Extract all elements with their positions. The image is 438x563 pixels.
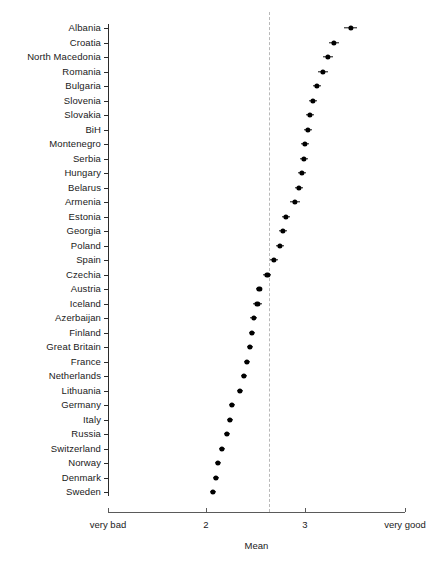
category-label: Czechia bbox=[66, 270, 101, 280]
data-point bbox=[237, 388, 242, 393]
data-point bbox=[281, 228, 286, 233]
data-point bbox=[299, 170, 304, 175]
category-label: Hungary bbox=[64, 168, 101, 178]
category-label: Georgia bbox=[67, 226, 102, 236]
x-axis-tick-label: very bad bbox=[90, 519, 126, 530]
data-point bbox=[219, 446, 224, 451]
data-point bbox=[247, 344, 252, 349]
category-label: Belarus bbox=[68, 183, 101, 193]
y-axis-tick bbox=[104, 231, 108, 232]
data-point bbox=[284, 214, 289, 219]
x-axis-title: Mean bbox=[245, 540, 269, 551]
category-label: Albania bbox=[69, 23, 101, 33]
data-point bbox=[331, 40, 336, 45]
category-label: Denmark bbox=[62, 473, 101, 483]
data-point bbox=[255, 301, 260, 306]
y-axis-tick bbox=[104, 246, 108, 247]
x-axis-line bbox=[108, 512, 405, 513]
data-point bbox=[296, 185, 301, 190]
data-point bbox=[213, 475, 218, 480]
x-axis-tick bbox=[305, 508, 306, 512]
y-axis-tick bbox=[104, 405, 108, 406]
category-label: North Macedonia bbox=[27, 52, 101, 62]
y-axis-tick bbox=[104, 260, 108, 261]
y-axis-tick bbox=[104, 159, 108, 160]
data-point bbox=[310, 98, 315, 103]
data-point bbox=[320, 69, 325, 74]
y-axis-tick bbox=[104, 144, 108, 145]
y-axis-tick bbox=[104, 463, 108, 464]
category-label: Great Britain bbox=[46, 342, 101, 352]
y-axis-tick bbox=[104, 57, 108, 58]
y-axis-tick bbox=[104, 217, 108, 218]
y-axis-tick bbox=[104, 86, 108, 87]
category-label: Bulgaria bbox=[65, 81, 101, 91]
y-axis-tick bbox=[104, 318, 108, 319]
y-axis-line bbox=[108, 24, 109, 496]
category-axis-labels: AlbaniaCroatiaNorth MacedoniaRomaniaBulg… bbox=[0, 0, 101, 563]
category-label: Spain bbox=[76, 255, 101, 265]
category-label: Norway bbox=[68, 458, 101, 468]
data-point bbox=[278, 243, 283, 248]
data-point bbox=[241, 373, 246, 378]
data-point bbox=[348, 25, 353, 30]
x-axis-tick bbox=[108, 508, 109, 512]
y-axis-tick bbox=[104, 202, 108, 203]
y-axis-tick bbox=[104, 347, 108, 348]
x-axis-tick-label: 3 bbox=[302, 519, 307, 530]
category-label: Slovakia bbox=[64, 110, 101, 120]
category-label: Netherlands bbox=[49, 371, 101, 381]
data-point bbox=[257, 286, 262, 291]
data-point bbox=[227, 417, 232, 422]
y-axis-tick bbox=[104, 72, 108, 73]
category-label: Sweden bbox=[66, 487, 101, 497]
data-point bbox=[292, 199, 297, 204]
y-axis-tick bbox=[104, 275, 108, 276]
y-axis-tick bbox=[104, 188, 108, 189]
plot-area: AlbaniaCroatiaNorth MacedoniaRomaniaBulg… bbox=[0, 0, 438, 563]
category-label: Armenia bbox=[65, 197, 101, 207]
data-point bbox=[272, 257, 277, 262]
data-point bbox=[244, 359, 249, 364]
data-point bbox=[249, 330, 254, 335]
y-axis-tick bbox=[104, 492, 108, 493]
y-axis-tick bbox=[104, 478, 108, 479]
category-label: Lithuania bbox=[62, 386, 101, 396]
reference-line bbox=[269, 12, 270, 512]
y-axis-tick bbox=[104, 43, 108, 44]
category-label: Italy bbox=[83, 415, 101, 425]
category-label: Montenegro bbox=[49, 139, 101, 149]
category-label: Azerbaijan bbox=[55, 313, 101, 323]
data-point bbox=[314, 83, 319, 88]
data-point bbox=[307, 112, 312, 117]
category-label: Switzerland bbox=[51, 444, 101, 454]
data-point bbox=[229, 402, 234, 407]
category-label: BiH bbox=[85, 125, 101, 135]
category-label: Russia bbox=[71, 429, 101, 439]
x-axis-tick-label: very good bbox=[384, 519, 426, 530]
category-label: Slovenia bbox=[64, 96, 101, 106]
y-axis-tick bbox=[104, 449, 108, 450]
category-label: Iceland bbox=[70, 299, 101, 309]
x-axis-tick bbox=[206, 508, 207, 512]
category-label: Austria bbox=[71, 284, 101, 294]
category-label: Croatia bbox=[70, 38, 101, 48]
category-label: Serbia bbox=[73, 154, 101, 164]
data-point bbox=[251, 315, 256, 320]
data-point bbox=[301, 156, 306, 161]
y-axis-tick bbox=[104, 28, 108, 29]
data-point bbox=[210, 489, 215, 494]
category-label: France bbox=[71, 357, 101, 367]
dot-plot-chart: AlbaniaCroatiaNorth MacedoniaRomaniaBulg… bbox=[0, 0, 438, 563]
x-axis-tick bbox=[405, 508, 406, 512]
data-point bbox=[325, 54, 330, 59]
y-axis-tick bbox=[104, 333, 108, 334]
y-axis-tick bbox=[104, 101, 108, 102]
data-point bbox=[215, 460, 220, 465]
y-axis-tick bbox=[104, 376, 108, 377]
y-axis-tick bbox=[104, 115, 108, 116]
category-label: Romania bbox=[62, 67, 101, 77]
x-axis-tick-label: 2 bbox=[203, 519, 208, 530]
y-axis-tick bbox=[104, 289, 108, 290]
data-point bbox=[224, 431, 229, 436]
